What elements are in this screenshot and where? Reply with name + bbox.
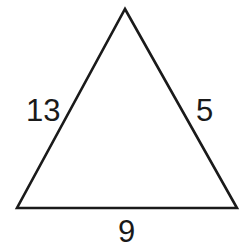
side-label-bottom: 9 [118,216,135,247]
triangle-diagram: 13 5 9 [0,0,247,248]
side-label-left: 13 [26,95,60,126]
side-label-right: 5 [196,95,213,126]
